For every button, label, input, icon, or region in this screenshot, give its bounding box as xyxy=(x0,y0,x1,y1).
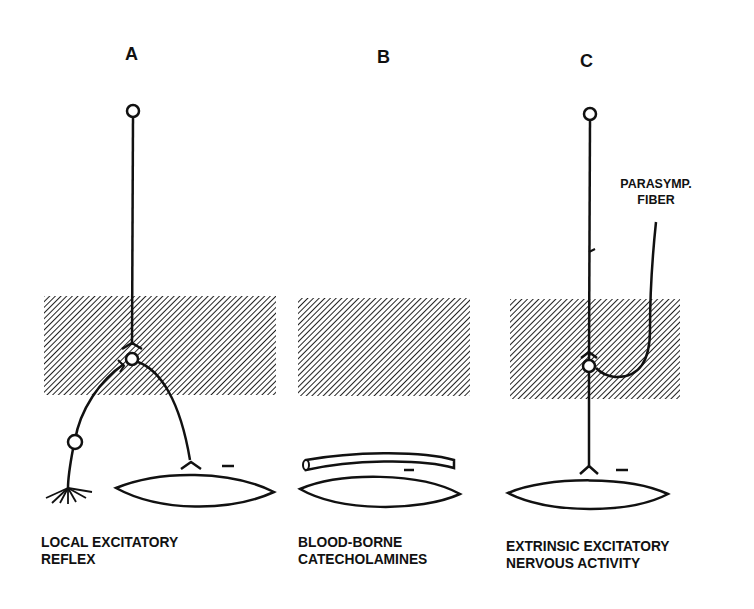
ganglion-region-c xyxy=(510,299,680,399)
smooth-muscle-cell-c xyxy=(508,480,668,509)
panel-c xyxy=(508,108,680,509)
smooth-muscle-cell-b xyxy=(300,477,460,507)
parasympathetic-fiber-label-line2: FIBER xyxy=(610,192,702,208)
parasympathetic-fiber-label: PARASYMP. FIBER xyxy=(610,176,702,207)
blood-vessel-opening-b xyxy=(303,460,309,470)
diagram-drawing xyxy=(0,0,754,609)
sensory-fiber-a xyxy=(68,449,73,488)
ganglion-cell-a xyxy=(126,353,138,365)
panel-a xyxy=(44,105,276,507)
caption-b-line2: CATECHOLAMINES xyxy=(298,550,427,567)
smooth-muscle-cell-a xyxy=(116,475,274,507)
caption-b: BLOOD-BORNE CATECHOLAMINES xyxy=(298,533,427,568)
effector-terminal-c xyxy=(580,466,598,474)
parasympathetic-fiber-label-line1: PARASYMP. xyxy=(610,176,702,192)
receptor-endings-icon xyxy=(46,488,92,504)
panel-label-a: A xyxy=(125,44,138,65)
panel-label-b: B xyxy=(377,47,390,68)
blood-vessel-b xyxy=(306,453,454,470)
caption-a-line1: LOCAL EXCITATORY xyxy=(41,533,178,550)
caption-a-line2: REFLEX xyxy=(41,550,178,567)
panel-b xyxy=(298,298,470,507)
panel-label-c: C xyxy=(580,51,593,72)
caption-c: EXTRINSIC EXCITATORY NERVOUS ACTIVITY xyxy=(506,537,670,572)
axon-a xyxy=(132,117,133,345)
sensory-soma-a xyxy=(68,435,82,449)
caption-c-line2: NERVOUS ACTIVITY xyxy=(506,554,670,571)
effector-terminal-a xyxy=(181,462,201,469)
ganglion-region-b xyxy=(298,298,470,396)
caption-a: LOCAL EXCITATORY REFLEX xyxy=(41,533,178,568)
ganglion-cell-c xyxy=(583,360,595,372)
neuron-soma-c-top xyxy=(584,108,596,120)
caption-b-line1: BLOOD-BORNE xyxy=(298,533,427,550)
diagram-canvas: A B C PARASYMP. FIBER LOCAL EXCITATORY R… xyxy=(0,0,754,609)
caption-c-line1: EXTRINSIC EXCITATORY xyxy=(506,537,670,554)
axon-c xyxy=(589,120,590,360)
neuron-soma-a-top xyxy=(127,105,139,117)
